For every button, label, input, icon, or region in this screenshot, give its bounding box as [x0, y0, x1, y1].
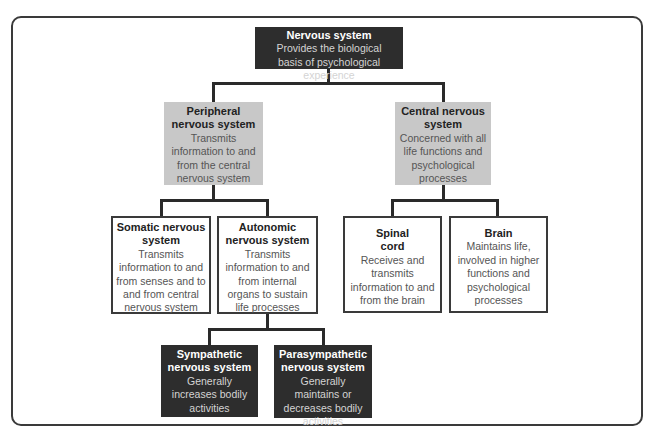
node-description: Provides the biological basis of psychol…	[258, 42, 400, 82]
node-title: Parasympathetic nervous system	[277, 348, 369, 375]
connector-peripheral-horizontal	[160, 199, 269, 202]
connector-central-horizontal	[391, 199, 499, 202]
connector-peripheral-down	[212, 185, 215, 200]
node-description: Generally increases bodily activities	[164, 375, 255, 415]
node-description: Receives and transmits information to an…	[348, 254, 437, 308]
connector-to-parasympathetic	[322, 328, 325, 345]
connector-to-spinal	[391, 199, 394, 217]
node-description: Concerned with all life functions and ps…	[398, 132, 488, 186]
connector-to-sympathetic	[208, 328, 211, 345]
node-central-nervous-system: Central nervous system Concerned with al…	[395, 102, 491, 185]
node-title: Nervous system	[258, 29, 400, 42]
node-spinal-cord: Spinal cord Receives and transmits infor…	[343, 216, 442, 313]
connector-autonomic-horizontal	[208, 328, 325, 331]
node-title: Brain	[454, 221, 543, 240]
node-title: Autonomic nervous system	[222, 221, 313, 248]
node-description: Transmits information to and from intern…	[222, 248, 313, 315]
connector-to-autonomic	[266, 199, 269, 217]
connector-to-peripheral	[212, 82, 215, 102]
node-description: Generally maintains or decreases bodily …	[277, 375, 369, 429]
node-description: Transmits information to and from the ce…	[167, 132, 260, 186]
node-brain: Brain Maintains life, involved in higher…	[449, 216, 548, 313]
node-description: Maintains life, involved in higher funct…	[454, 240, 543, 307]
node-peripheral-nervous-system: Peripheral nervous system Transmits info…	[164, 102, 263, 185]
node-nervous-system: Nervous system Provides the biological b…	[255, 27, 403, 69]
node-title: Spinal cord	[348, 221, 437, 254]
connector-to-brain	[496, 199, 499, 217]
node-autonomic-nervous-system: Autonomic nervous system Transmits infor…	[217, 216, 318, 314]
node-title: Central nervous system	[398, 105, 488, 132]
node-title: Somatic nervous system	[116, 221, 206, 248]
node-somatic-nervous-system: Somatic nervous system Transmits informa…	[111, 216, 211, 314]
connector-central-down	[442, 185, 445, 200]
connector-to-central	[442, 82, 445, 102]
node-title: Peripheral nervous system	[167, 105, 260, 132]
node-title: Sympathetic nervous system	[164, 348, 255, 375]
node-description: Transmits information to and from senses…	[116, 248, 206, 315]
node-sympathetic-nervous-system: Sympathetic nervous system Generally inc…	[161, 345, 258, 417]
connector-to-somatic	[160, 199, 163, 217]
node-parasympathetic-nervous-system: Parasympathetic nervous system Generally…	[274, 345, 372, 418]
